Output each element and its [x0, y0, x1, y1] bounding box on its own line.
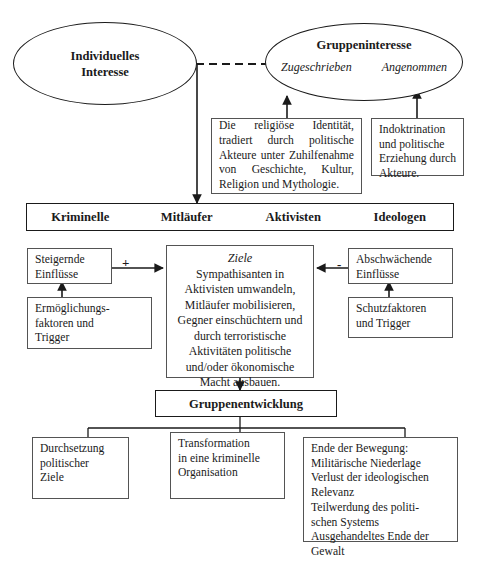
enabling-factors-line2: faktoren und	[35, 317, 144, 332]
diagram-canvas: Individuelles Interesse Gruppeninteresse…	[0, 0, 478, 565]
node-outcome-political: Durchsetzung politischer Ziele	[32, 437, 129, 499]
enabling-factors-line1: Ermöglichungs-	[35, 302, 144, 317]
individual-interest-line1: Individuelles	[71, 48, 140, 64]
increasing-influences-line1: Steigernde	[35, 253, 104, 268]
outcome-political-line3: Ziele	[40, 471, 121, 486]
node-religious-identity: Die religiöse Identität, tradiert durch …	[211, 118, 362, 194]
node-outcome-criminal: Transformation in eine kriminelle Organi…	[170, 432, 285, 499]
goals-heading: Ziele	[174, 251, 306, 267]
increasing-influences-line2: Einflüsse	[35, 268, 104, 283]
outcome-end-line7: Ausgehandeltes Ende der	[311, 530, 450, 545]
node-weakening-influences: Abschwächende Einflüsse	[348, 248, 453, 284]
group-interest-title: Gruppeninteresse	[317, 37, 412, 53]
node-increasing-influences: Steigernde Einflüsse	[27, 248, 112, 284]
weakening-influences-line1: Abschwächende	[356, 253, 445, 268]
node-indoctrination: Indoktrination und politische Erziehung …	[371, 118, 464, 176]
outcome-end-line1: Ende der Bewegung:	[311, 442, 450, 457]
actor-type-kriminelle: Kriminelle	[27, 210, 134, 225]
outcome-end-line8: Gewalt	[311, 545, 450, 560]
outcome-end-line5: Teilwerdung des politi-	[311, 501, 450, 516]
enabling-factors-line3: Trigger	[35, 331, 144, 346]
outcome-end-line4: Relevanz	[311, 486, 450, 501]
outcome-end-line3: Verlust der ideologischen	[311, 471, 450, 486]
edge-label-negative: -	[337, 258, 341, 271]
node-outcome-end: Ende der Bewegung: Militärische Niederla…	[303, 437, 458, 542]
node-enabling-factors: Ermöglichungs- faktoren und Trigger	[27, 297, 152, 349]
indoctrination-text: Indoktrination und politische Erziehung …	[379, 123, 456, 182]
actor-type-ideologen: Ideologen	[347, 210, 454, 225]
goals-text: Sympathisanten in Aktivisten umwandeln, …	[174, 267, 306, 391]
outcome-end-line2: Militärische Niederlage	[311, 457, 450, 472]
node-group-development: Gruppenentwicklung	[155, 390, 337, 417]
protective-factors-line1: Schutzfaktoren	[356, 302, 445, 317]
outcome-criminal-line1: Transformation	[178, 437, 277, 452]
edge-label-positive: +	[122, 256, 129, 269]
outcome-criminal-line3: Organisation	[178, 466, 277, 481]
outcome-criminal-line2: in eine kriminelle	[178, 452, 277, 467]
weakening-influences-line2: Einflüsse	[356, 268, 445, 283]
outcome-political-line2: politischer	[40, 457, 121, 472]
group-development-label: Gruppenentwicklung	[189, 396, 303, 412]
node-goals: Ziele Sympathisanten in Aktivisten umwan…	[166, 245, 314, 378]
group-interest-assumed: Angenommen	[382, 60, 447, 75]
protective-factors-line2: und Trigger	[356, 317, 445, 332]
node-protective-factors: Schutzfaktoren und Trigger	[348, 297, 453, 338]
outcome-political-line1: Durchsetzung	[40, 442, 121, 457]
actor-type-aktivisten: Aktivisten	[240, 210, 347, 225]
outcome-end-line6: schen Systems	[311, 516, 450, 531]
node-group-interest: Gruppeninteresse Zugeschrieben Angenomme…	[265, 23, 463, 101]
node-individual-interest: Individuelles Interesse	[13, 22, 197, 105]
actor-type-mitlaeufer: Mitläufer	[134, 210, 241, 225]
individual-interest-line2: Interesse	[81, 64, 129, 80]
group-interest-ascribed: Zugeschrieben	[281, 60, 352, 75]
node-actor-types-bar: Kriminelle Mitläufer Aktivisten Ideologe…	[26, 203, 454, 231]
religious-identity-text: Die religiöse Identität, tradiert durch …	[219, 119, 354, 193]
